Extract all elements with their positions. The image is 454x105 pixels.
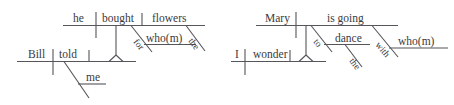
label-with: with xyxy=(373,40,392,60)
label-mary: Mary xyxy=(265,12,290,25)
label-he: he xyxy=(73,12,84,24)
label-whom-right: who(m) xyxy=(398,35,435,48)
label-wonder: wonder xyxy=(253,48,288,60)
right-pedestal-leg-a xyxy=(299,55,306,62)
label-for: for xyxy=(131,37,146,53)
label-is-going: is going xyxy=(327,12,364,25)
label-flowers: flowers xyxy=(152,12,187,24)
label-me: me xyxy=(86,71,100,83)
label-the-left: the xyxy=(186,36,201,51)
label-told: told xyxy=(59,48,77,60)
label-bill: Bill xyxy=(28,48,45,60)
label-i: I xyxy=(235,48,239,60)
label-whom-left: who(m) xyxy=(146,32,183,45)
diagram-canvas: he bought flowers for who(m) the Bill to… xyxy=(0,0,454,105)
label-the-right: the xyxy=(347,56,362,71)
left-pedestal-leg-a xyxy=(109,55,116,62)
sentence-diagram-figure: he bought flowers for who(m) the Bill to… xyxy=(0,0,454,105)
left-pedestal-leg-b xyxy=(116,55,123,62)
right-diagram: Mary is going to dance the with who(m) I… xyxy=(231,12,448,75)
left-diagram: he bought flowers for who(m) the Bill to… xyxy=(17,12,205,98)
right-pedestal-leg-b xyxy=(306,55,313,62)
label-bought: bought xyxy=(102,12,135,25)
label-dance: dance xyxy=(335,32,362,44)
